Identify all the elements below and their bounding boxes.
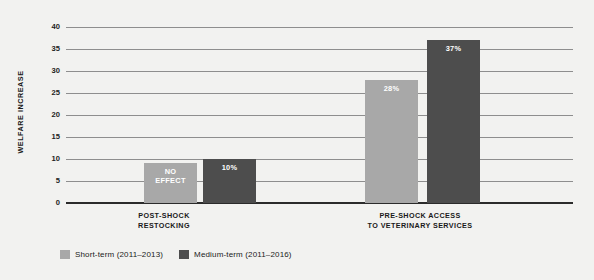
bar-label-pre-shock-medium-term: 37% <box>427 44 480 53</box>
gridline-5 <box>66 181 573 182</box>
legend-swatch-short-term-icon <box>60 250 70 259</box>
category-label-post-shock-restocking-line2: RESTOCKING <box>114 221 214 231</box>
category-label-post-shock-restocking-line1: POST-SHOCK <box>114 211 214 221</box>
category-label-pre-shock-access-line2: TO VETERINARY SERVICES <box>340 221 500 231</box>
bar-chart: WELFARE INCREASE 40 35 30 25 20 15 10 5 … <box>0 0 594 280</box>
y-axis-title: WELFARE INCREASE <box>16 52 30 172</box>
legend-label-short-term: Short-term (2011–2013) <box>75 250 163 259</box>
y-tick-5: 5 <box>38 177 60 185</box>
legend-label-medium-term: Medium-term (2011–2016) <box>194 250 292 259</box>
y-tick-20: 20 <box>38 111 60 119</box>
y-tick-25: 25 <box>38 89 60 97</box>
bar-label-post-shock-short-term-line1: NO <box>144 167 197 176</box>
bar-post-shock-short-term: NO EFFECT <box>144 163 197 203</box>
gridline-30 <box>66 71 573 72</box>
bar-pre-shock-medium-term: 37% <box>427 40 480 203</box>
y-tick-35: 35 <box>38 45 60 53</box>
gridline-15 <box>66 137 573 138</box>
y-tick-40: 40 <box>38 23 60 31</box>
bar-label-pre-shock-short-term: 28% <box>365 84 418 93</box>
category-label-pre-shock-access: PRE-SHOCK ACCESS TO VETERINARY SERVICES <box>340 211 500 231</box>
y-tick-0: 0 <box>38 199 60 207</box>
category-label-post-shock-restocking: POST-SHOCK RESTOCKING <box>114 211 214 231</box>
y-tick-30: 30 <box>38 67 60 75</box>
y-tick-15: 15 <box>38 133 60 141</box>
gridline-25 <box>66 93 573 94</box>
plot-area: NO EFFECT 10% 28% 37% <box>66 27 573 203</box>
legend-item-short-term[interactable]: Short-term (2011–2013) <box>60 250 163 259</box>
gridline-10 <box>66 159 573 160</box>
gridline-20 <box>66 115 573 116</box>
axis-baseline <box>66 202 573 204</box>
legend-swatch-medium-term-icon <box>179 250 189 259</box>
bar-post-shock-medium-term: 10% <box>203 159 256 203</box>
gridline-40 <box>66 27 573 28</box>
legend: Short-term (2011–2013) Medium-term (2011… <box>60 250 292 259</box>
bar-label-post-shock-short-term-line2: EFFECT <box>144 176 197 185</box>
bar-pre-shock-short-term: 28% <box>365 80 418 203</box>
gridline-35 <box>66 49 573 50</box>
bar-label-post-shock-medium-term: 10% <box>203 163 256 172</box>
category-label-pre-shock-access-line1: PRE-SHOCK ACCESS <box>340 211 500 221</box>
y-tick-10: 10 <box>38 155 60 163</box>
legend-item-medium-term[interactable]: Medium-term (2011–2016) <box>179 250 292 259</box>
